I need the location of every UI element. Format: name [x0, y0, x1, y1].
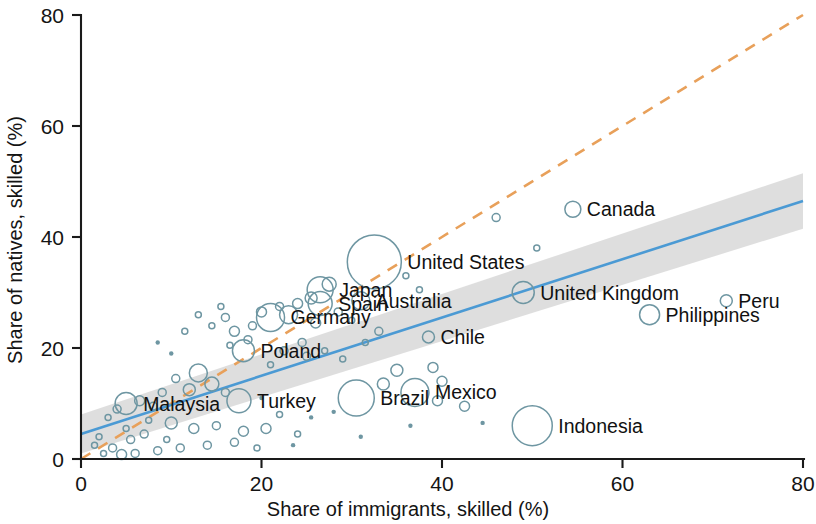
data-bubble	[176, 444, 184, 452]
data-bubble	[229, 326, 239, 336]
data-bubble	[428, 362, 438, 372]
point-label-brazil: Brazil	[380, 387, 429, 409]
point-label-chile: Chile	[440, 326, 484, 348]
data-bubble	[322, 277, 336, 291]
plot-canvas: 020406080020406080 CanadaUnited StatesPe…	[0, 0, 816, 524]
point-label-poland: Poland	[260, 340, 321, 362]
data-bubble	[164, 437, 170, 443]
point-label-malaysia: Malaysia	[143, 393, 220, 415]
data-bubble	[391, 364, 403, 376]
data-bubble	[295, 431, 301, 437]
data-bubble	[403, 273, 409, 279]
y-tick-label: 20	[41, 337, 64, 360]
x-tick-label: 60	[611, 472, 634, 495]
data-bubble	[131, 449, 139, 457]
data-bubble	[230, 438, 238, 446]
point-label-canada: Canada	[587, 198, 655, 220]
y-tick-label: 60	[41, 115, 64, 138]
bubble-scatter-chart: 020406080020406080 CanadaUnited StatesPe…	[0, 0, 816, 524]
x-tick-label: 40	[430, 472, 453, 495]
x-tick-label: 80	[791, 472, 814, 495]
data-bubble	[227, 342, 233, 348]
point-label-mexico: Mexico	[435, 381, 497, 403]
data-bubble	[218, 303, 224, 309]
data-bubble	[172, 375, 180, 383]
data-bubble	[182, 328, 188, 334]
data-bubble	[534, 245, 540, 251]
y-tick-label: 40	[41, 226, 64, 249]
data-bubble	[212, 422, 220, 430]
y-axis-title: Share of natives, skilled (%)	[4, 116, 26, 364]
point-label-turkey: Turkey	[257, 390, 316, 412]
data-bubble	[309, 415, 313, 419]
data-bubble	[480, 421, 484, 425]
point-label-united-kingdom: United Kingdom	[540, 282, 679, 304]
y-tick-label: 0	[52, 448, 64, 471]
data-bubble	[156, 340, 160, 344]
data-bubble	[254, 445, 260, 451]
data-bubble-indonesia	[512, 406, 552, 446]
point-label-indonesia: Indonesia	[558, 415, 643, 437]
data-bubble-canada	[565, 201, 581, 217]
data-bubble	[101, 450, 107, 456]
point-label-germany: Germany	[291, 306, 371, 328]
x-tick-label: 0	[75, 472, 87, 495]
point-label-united-states: United States	[407, 251, 524, 273]
y-tick-label: 80	[41, 4, 64, 27]
data-bubble	[492, 214, 500, 222]
data-bubble	[209, 323, 215, 329]
data-bubble-poland	[232, 340, 254, 362]
data-bubble	[109, 444, 117, 452]
data-bubble	[189, 423, 199, 433]
data-bubble	[195, 312, 201, 318]
point-label-philippines: Philippines	[666, 304, 761, 326]
data-bubble-brazil	[338, 380, 374, 416]
data-bubble	[203, 441, 211, 449]
data-bubble	[154, 447, 162, 455]
x-tick-label: 20	[250, 472, 273, 495]
data-bubble	[332, 410, 336, 414]
data-bubble	[221, 313, 229, 321]
data-bubble	[291, 443, 295, 447]
data-bubble	[277, 412, 283, 418]
data-bubble	[359, 435, 363, 439]
data-bubble	[238, 426, 248, 436]
x-axis-title: Share of immigrants, skilled (%)	[267, 498, 549, 520]
data-bubble	[408, 424, 412, 428]
data-bubble	[248, 322, 256, 330]
data-bubble	[261, 423, 271, 433]
data-bubble-philippines	[640, 305, 660, 325]
data-bubble-japan	[307, 277, 333, 303]
data-bubble	[169, 351, 173, 355]
